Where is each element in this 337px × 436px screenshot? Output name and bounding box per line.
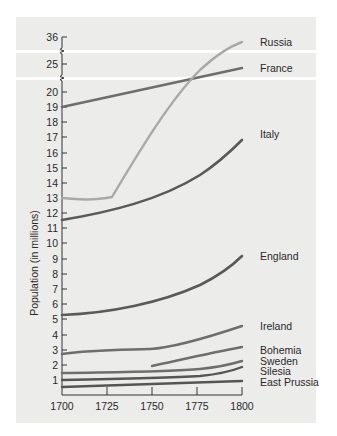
y-tick-13: 13	[46, 192, 58, 204]
y-tick-17: 17	[46, 131, 58, 143]
series-labels: Russia France Italy England Ireland Bohe…	[260, 36, 319, 388]
y-axis-title: Population (in millions)	[28, 210, 40, 316]
y-tick-11: 11	[47, 222, 58, 234]
y-tick-36: 36	[46, 31, 58, 43]
y-tick-25: 25	[46, 58, 58, 70]
line-east-prussia	[62, 381, 242, 387]
y-tick-1: 1	[52, 374, 58, 386]
line-france	[62, 68, 242, 107]
label-england: England	[260, 250, 299, 262]
line-russia	[62, 42, 242, 199]
x-tick-1775: 1775	[185, 400, 209, 412]
x-tick-1700: 1700	[50, 400, 74, 412]
x-tick-1800: 1800	[230, 400, 254, 412]
y-tick-18: 18	[46, 116, 58, 128]
line-ireland	[62, 326, 242, 354]
y-tick-16: 16	[46, 147, 58, 159]
y-tick-8: 8	[52, 268, 58, 280]
x-tick-1725: 1725	[95, 400, 119, 412]
y-tick-3: 3	[52, 344, 58, 356]
y-tick-15: 15	[46, 162, 58, 174]
line-italy	[62, 140, 242, 220]
line-england	[62, 256, 242, 315]
y-tick-9: 9	[52, 253, 58, 265]
y-tick-4: 4	[52, 329, 58, 341]
label-east-prussia: East Prussia	[260, 376, 319, 388]
y-tick-7: 7	[52, 283, 58, 295]
x-axis	[62, 387, 242, 395]
y-tick-20: 20	[46, 86, 58, 98]
line-bohemia	[152, 347, 242, 366]
y-axis	[60, 37, 67, 395]
label-ireland: Ireland	[260, 320, 292, 332]
series-lines	[62, 42, 242, 387]
y-tick-5: 5	[52, 313, 58, 325]
label-france: France	[260, 62, 293, 74]
y-tick-12: 12	[46, 207, 58, 219]
y-tick-10: 10	[46, 237, 58, 249]
label-italy: Italy	[260, 128, 280, 140]
y-tick-19: 19	[46, 101, 58, 113]
y-tick-2: 2	[52, 359, 58, 371]
label-russia: Russia	[260, 36, 292, 48]
x-tick-labels: 1700 1725 1750 1775 1800	[50, 400, 254, 412]
y-tick-6: 6	[52, 298, 58, 310]
population-chart: 36 25 20 19 18 17 16 15 14 13 12 11 10 9…	[0, 0, 337, 436]
x-tick-1750: 1750	[140, 400, 164, 412]
y-tick-14: 14	[46, 177, 58, 189]
y-tick-labels: 36 25 20 19 18 17 16 15 14 13 12 11 10 9…	[46, 31, 58, 386]
